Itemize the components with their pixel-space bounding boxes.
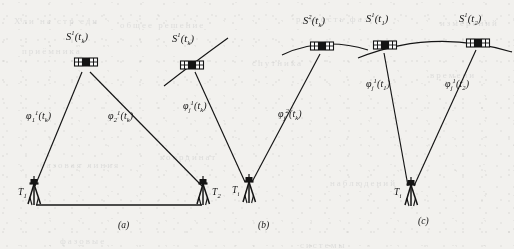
satellite-icon xyxy=(374,41,397,50)
figure-root: Хли на стр еди общее решение разность фа… xyxy=(0,0,514,249)
signal-path-s1-to-ti xyxy=(195,72,245,182)
satellite-label-s1-t1: S1(t1) xyxy=(366,12,388,26)
signal-path-s1t2-to-ti xyxy=(414,50,476,186)
caption-c: (c) xyxy=(418,217,429,227)
signal-path-s1-to-t2 xyxy=(90,72,202,186)
satellite-icon xyxy=(181,61,204,70)
satellite-label-s2-tk: S2(tk) xyxy=(303,14,325,28)
receiver-label-ti: Ti xyxy=(394,188,401,199)
caption-a: (a) xyxy=(118,221,129,231)
satellite-icon xyxy=(467,39,490,48)
satellite-label-s1-t2: S1(t2) xyxy=(459,12,481,26)
phase-label-phi-j-2-tk: φj2(tk) xyxy=(278,108,302,122)
panel-a xyxy=(28,58,210,206)
satellite-label-s1-tk: S1(tk) xyxy=(172,32,194,46)
phase-label-phi-j-1-tk: φj1(tk) xyxy=(183,100,207,114)
satellite-icon xyxy=(75,58,98,67)
phase-label-phi-j-1-t1: φj1(t1) xyxy=(366,78,390,92)
signal-path-s1-to-t1 xyxy=(35,72,82,186)
receiver-label-ti: Ti xyxy=(232,186,239,197)
caption-b: (b) xyxy=(258,221,269,231)
receiver-label-t1: T1 xyxy=(18,188,27,199)
phase-label-phi-j-1-t2: φj1(t2) xyxy=(445,78,469,92)
receiver-label-t2: T2 xyxy=(212,188,221,199)
signal-path-s1t1-to-ti xyxy=(384,53,408,186)
panel-c xyxy=(358,39,512,207)
satellite-label-s1-tk: S1(tk) xyxy=(66,30,88,44)
tripod-icon xyxy=(28,176,41,205)
phase-label-phi-1-1-tk: φ11(tk) xyxy=(26,110,51,124)
phase-label-phi-2-1-tk: φ21(tk) xyxy=(108,110,133,124)
tripod-icon xyxy=(197,176,210,205)
satellite-icon xyxy=(311,42,334,51)
